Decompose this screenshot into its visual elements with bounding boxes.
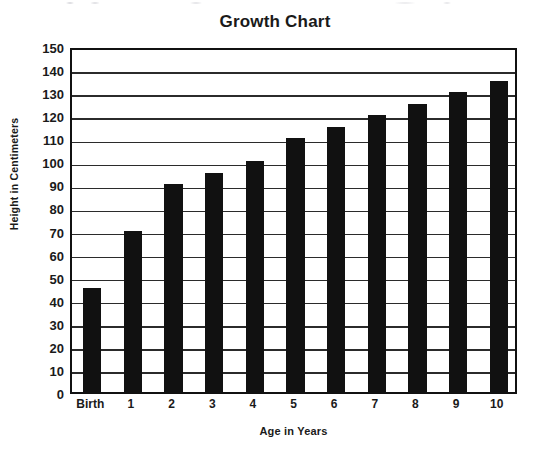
y-axis-tick-label: 60: [18, 249, 64, 262]
chart-title: Growth Chart: [0, 12, 550, 32]
growth-chart-figure: Growth Chart Height in Centimeters 15014…: [0, 0, 550, 455]
y-axis-tick-label: 100: [18, 157, 64, 170]
y-axis-tick-label: 140: [18, 65, 64, 78]
y-axis-tick-label: 110: [18, 134, 64, 147]
y-axis-tick-label: 90: [18, 180, 64, 193]
x-axis-tick-label: 8: [412, 398, 419, 410]
y-axis-tick-label: 10: [18, 364, 64, 377]
x-axis-tick-labels: Birth12345678910: [70, 398, 517, 416]
y-axis-tick-label: 0: [18, 388, 64, 401]
bar: [449, 92, 467, 392]
x-axis-tick-label: 10: [490, 398, 503, 410]
x-axis-tick-label: 9: [453, 398, 460, 410]
bar: [205, 173, 223, 392]
bar: [286, 138, 304, 392]
y-axis-tick-labels: 1501401301201101009080706050403020100: [18, 48, 64, 394]
plot-area: [70, 48, 517, 394]
bar: [368, 115, 386, 392]
y-axis-tick-label: 50: [18, 272, 64, 285]
bar: [327, 127, 345, 392]
y-axis-tick-label: 30: [18, 318, 64, 331]
x-axis-tick-label: 2: [168, 398, 175, 410]
bar: [164, 184, 182, 392]
bar: [83, 288, 101, 392]
x-axis-tick-label: 1: [128, 398, 135, 410]
bar: [490, 81, 508, 392]
x-axis-tick-label: 7: [371, 398, 378, 410]
x-axis-tick-label: 5: [290, 398, 297, 410]
x-axis-tick-label: 6: [331, 398, 338, 410]
x-axis-tick-label: 3: [209, 398, 216, 410]
y-axis-tick-label: 80: [18, 203, 64, 216]
y-axis-tick-label: 70: [18, 226, 64, 239]
y-axis-tick-label: 120: [18, 111, 64, 124]
y-axis-tick-label: 130: [18, 88, 64, 101]
bars-layer: [72, 50, 515, 392]
x-axis-tick-label: Birth: [76, 398, 104, 410]
x-axis-tick-label: 4: [250, 398, 257, 410]
y-axis-tick-label: 150: [18, 42, 64, 55]
y-axis-tick-label: 20: [18, 341, 64, 354]
bar: [246, 161, 264, 392]
y-axis-tick-label: 40: [18, 295, 64, 308]
bar: [124, 231, 142, 392]
bar: [408, 104, 426, 392]
x-axis-title: Age in Years: [70, 425, 517, 437]
